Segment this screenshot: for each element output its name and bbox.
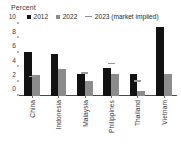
legend-dash-icon: [85, 16, 92, 18]
legend-item-2023: 2023 (market implied): [85, 13, 158, 20]
x-axis-tick-mark: [137, 96, 138, 98]
x-axis-label: Thailand: [134, 100, 141, 126]
bar-group: Thailand: [124, 24, 150, 96]
x-axis-label: Indonesia: [55, 100, 62, 130]
legend-label-2012: 2012: [34, 13, 49, 20]
bar-group: Malaysia: [72, 24, 98, 96]
x-axis-tick-mark: [164, 96, 165, 98]
x-axis-label: Malaysia: [82, 100, 89, 127]
y-axis-tick-label: 8: [12, 29, 16, 36]
bar-group: Vietnam: [151, 24, 177, 96]
x-axis-tick-mark: [58, 96, 59, 98]
bar-2012: [77, 74, 85, 96]
bar-2022: [32, 75, 40, 96]
y-axis-title: Percent: [11, 4, 36, 11]
legend-label-2022: 2022: [63, 13, 78, 20]
legend-square-black-icon: [27, 15, 31, 19]
bar-2022: [137, 91, 145, 96]
bar-2022: [164, 74, 172, 96]
x-axis-label: Philippines: [108, 100, 115, 133]
marker-2023-market-implied: [108, 63, 115, 65]
x-axis-tick-mark: [111, 96, 112, 98]
bar-2012: [103, 68, 111, 96]
legend-square-gray-icon: [56, 15, 60, 19]
legend-label-2023: 2023 (market implied): [95, 13, 159, 20]
y-axis-tick-label: 4: [12, 57, 16, 64]
bar-2012: [130, 74, 138, 96]
y-axis-tick-label: 10: [9, 14, 16, 21]
y-axis-tick-label: 0: [12, 86, 16, 93]
chart-legend: 2012 2022 2023 (market implied): [27, 13, 159, 20]
bar-2022: [85, 81, 93, 96]
bar-2012: [51, 54, 59, 96]
y-axis-tick-label: 2: [12, 72, 16, 79]
x-axis-tick-mark: [32, 96, 33, 98]
y-axis-tick-label: 6: [12, 43, 16, 50]
marker-2023-market-implied: [29, 76, 36, 78]
bar-2022: [111, 74, 119, 96]
bar-2022: [58, 69, 66, 96]
bar-group: China: [19, 24, 45, 96]
x-axis-label: China: [29, 100, 36, 118]
marker-2023-market-implied: [134, 80, 141, 82]
legend-item-2012: 2012: [27, 13, 48, 20]
x-axis-label: Vietnam: [161, 100, 168, 125]
bar-group: Philippines: [98, 24, 124, 96]
chart-figure: Percent 2012 2022 2023 (market implied) …: [0, 0, 181, 144]
legend-item-2022: 2022: [56, 13, 77, 20]
plot-area: 0246810ChinaIndonesiaMalaysiaPhilippines…: [19, 24, 177, 96]
bar-2012: [24, 52, 32, 96]
bar-2012: [156, 27, 164, 96]
marker-2023-market-implied: [81, 72, 88, 74]
x-axis-tick-mark: [85, 96, 86, 98]
bar-group: Indonesia: [45, 24, 71, 96]
